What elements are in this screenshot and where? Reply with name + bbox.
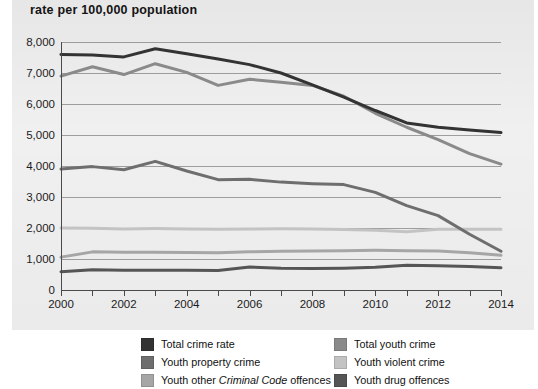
legend-swatch: [141, 338, 154, 351]
plot-area: [61, 42, 501, 290]
y-axis-tick-label: 1,000: [26, 253, 55, 265]
y-axis-tick-label: 0: [49, 284, 55, 296]
x-axis-tick: [407, 291, 408, 296]
legend-label: Youth drug offences: [354, 374, 449, 386]
x-axis-tick-label: 2010: [362, 298, 388, 310]
y-axis-tick-label: 6,000: [26, 98, 55, 110]
y-axis-tick-label: 3,000: [26, 191, 55, 203]
legend-label: Youth property crime: [161, 356, 260, 368]
series-line: [61, 265, 501, 272]
series-line: [61, 250, 501, 257]
x-axis-tick-label: 2004: [174, 298, 200, 310]
legend-item: Youth other Criminal Code offences: [141, 371, 331, 389]
legend-item: Youth property crime: [141, 353, 331, 371]
series-line: [61, 49, 501, 133]
series-line: [61, 228, 501, 232]
x-axis-tick: [438, 291, 439, 296]
legend-label: Total youth crime: [354, 338, 436, 350]
x-axis-tick-label: 2002: [111, 298, 137, 310]
legend-item: Total youth crime: [334, 335, 449, 353]
chart-series-lines: [61, 42, 501, 290]
legend-column-left: Total crime rateYouth property crimeYout…: [141, 335, 331, 389]
chart-legend: Total crime rateYouth property crimeYout…: [0, 332, 538, 389]
legend-item: Total crime rate: [141, 335, 331, 353]
y-axis-tick-label: 8,000: [26, 36, 55, 48]
legend-label: Youth other Criminal Code offences: [161, 374, 331, 386]
y-axis-tick-label: 5,000: [26, 129, 55, 141]
legend-label: Total crime rate: [161, 338, 235, 350]
x-axis-tick: [281, 291, 282, 296]
x-axis-tick: [312, 291, 313, 296]
x-axis-tick: [124, 291, 125, 296]
x-axis-tick-label: 2014: [488, 298, 514, 310]
series-line: [61, 161, 501, 251]
legend-item: Youth drug offences: [334, 371, 449, 389]
x-axis-tick: [61, 291, 62, 296]
x-axis-tick-label: 2000: [48, 298, 74, 310]
y-axis-tick-label: 7,000: [26, 67, 55, 79]
y-axis-line: [61, 42, 62, 291]
legend-column-right: Total youth crimeYouth violent crimeYout…: [334, 335, 449, 389]
x-axis-tick: [344, 291, 345, 296]
series-line: [61, 64, 501, 164]
y-axis-tick-label: 2,000: [26, 222, 55, 234]
x-axis-tick-label: 2008: [300, 298, 326, 310]
x-axis-tick: [218, 291, 219, 296]
legend-label: Youth violent crime: [354, 356, 445, 368]
x-axis-tick: [155, 291, 156, 296]
x-axis-tick: [92, 291, 93, 296]
y-axis-labels: 01,0002,0003,0004,0005,0006,0007,0008,00…: [0, 42, 55, 290]
x-axis-tick: [501, 291, 502, 296]
legend-item: Youth violent crime: [334, 353, 449, 371]
x-axis-tick-label: 2012: [425, 298, 451, 310]
x-axis-tick: [375, 291, 376, 296]
legend-swatch: [141, 374, 154, 387]
legend-swatch: [141, 356, 154, 369]
x-axis-tick: [187, 291, 188, 296]
x-axis-tick-label: 2006: [237, 298, 263, 310]
legend-swatch: [334, 356, 347, 369]
x-axis-tick: [250, 291, 251, 296]
y-axis-tick-label: 4,000: [26, 160, 55, 172]
legend-swatch: [334, 338, 347, 351]
legend-swatch: [334, 374, 347, 387]
chart-title: rate per 100,000 population: [30, 3, 197, 17]
x-axis-tick: [470, 291, 471, 296]
